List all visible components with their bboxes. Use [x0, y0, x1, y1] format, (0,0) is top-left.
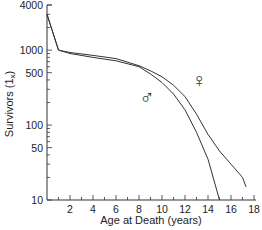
x-tick-label: 14	[202, 203, 214, 215]
svg-text:Survivors (1x): Survivors (1x)	[3, 71, 17, 137]
y-tick-label: 1000	[20, 44, 44, 56]
y-axis-title: Survivors (1x)	[3, 71, 17, 137]
x-tick-label: 4	[90, 203, 96, 215]
y-tick-label: 100	[25, 119, 43, 131]
y-tick-label: 10	[31, 194, 43, 206]
y-tick-label: 50	[31, 142, 43, 154]
male-series-line	[47, 14, 220, 200]
survivorship-chart: 400010005001005010 24681012141618 Age at…	[0, 0, 262, 230]
female-symbol-icon: ♀	[192, 69, 207, 91]
x-axis-title: Age at Death (years)	[100, 214, 202, 226]
x-tick-label: 18	[248, 203, 260, 215]
x-tick-label: 16	[225, 203, 237, 215]
x-tick-label: 2	[67, 203, 73, 215]
male-symbol-icon: ♂	[140, 86, 155, 108]
y-tick-label: 500	[25, 67, 43, 79]
y-tick-label: 4000	[20, 0, 44, 11]
x-ticks: 24681012141618	[59, 195, 260, 215]
